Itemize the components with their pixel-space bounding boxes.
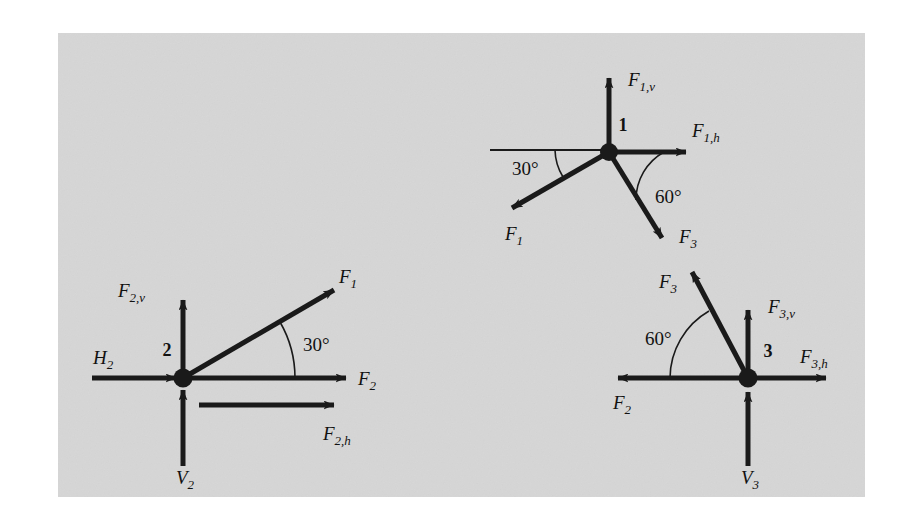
force-diagram: 1 F1,v F1,h F1 F3 30° 60° 2 F2,v F1 F2 F… <box>0 0 908 514</box>
joint-number-2: 2 <box>163 340 172 360</box>
joint-node-1 <box>600 143 618 161</box>
panel-texture <box>58 33 865 497</box>
angle-label-60-joint1: 60° <box>655 186 682 207</box>
joint-node-3 <box>739 369 758 388</box>
joint-number-3: 3 <box>764 341 773 361</box>
joint-number-1: 1 <box>619 115 628 135</box>
figure-root: 1 F1,v F1,h F1 F3 30° 60° 2 F2,v F1 F2 F… <box>0 0 908 514</box>
angle-label-30-joint2: 30° <box>303 334 330 355</box>
angle-label-30-joint1: 30° <box>512 158 539 179</box>
angle-label-60-joint3: 60° <box>645 328 672 349</box>
joint-node-2 <box>174 369 193 388</box>
